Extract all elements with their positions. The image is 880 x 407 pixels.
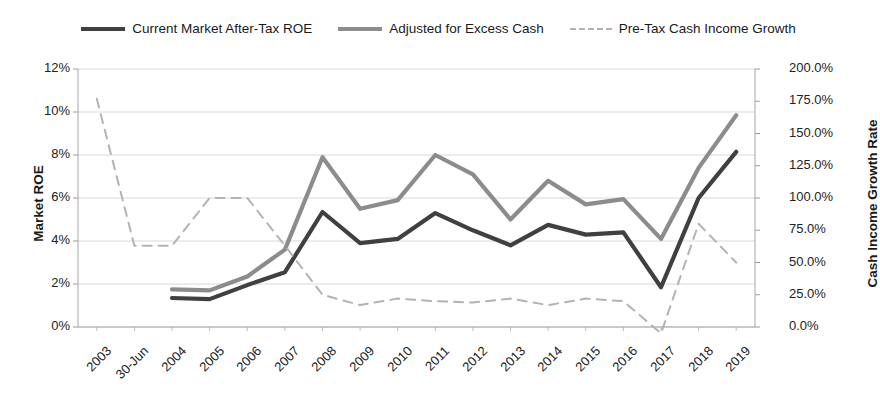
series-line-1 — [172, 115, 736, 290]
gridlines — [73, 69, 760, 331]
series-line-0 — [172, 152, 736, 299]
series-lines — [97, 99, 736, 334]
